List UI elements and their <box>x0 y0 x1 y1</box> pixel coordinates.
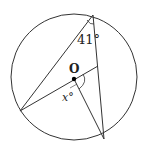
angle-x-label: x° <box>62 91 74 104</box>
chord-ab <box>20 15 93 111</box>
geometry-diagram: 41° O x° <box>0 0 146 152</box>
angle-41-label: 41° <box>77 32 100 47</box>
center-dot <box>72 77 76 81</box>
center-label: O <box>69 62 79 76</box>
angle-arc-a <box>87 20 94 24</box>
angle-pointer <box>70 84 77 88</box>
